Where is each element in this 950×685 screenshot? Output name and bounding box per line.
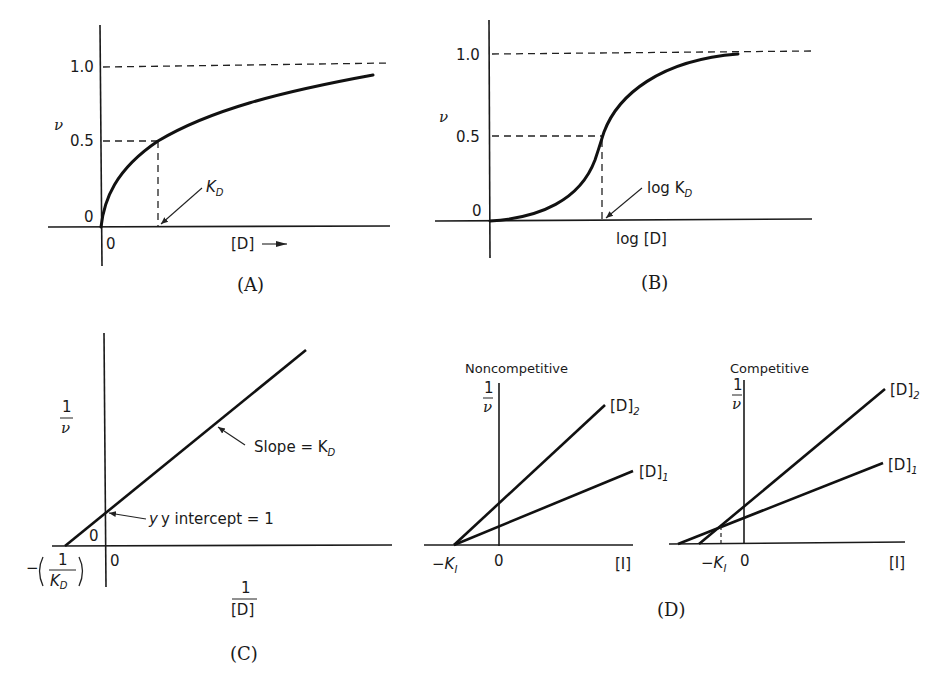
panel-d-competitive: Competitive 1 ν [D]2 [D]1 −KI 0 [I] [669,361,920,574]
origin-label: 0 [494,552,504,570]
label-d2: [D]2 [610,397,640,417]
label-d1: [D]1 [639,463,669,483]
paren-right [79,557,83,586]
y-axis [100,25,102,266]
line-d2 [454,405,605,545]
x-axis-label: log [D] [616,230,667,248]
y-axis-label-den: ν [483,398,492,416]
origin-label: 0 [740,552,750,570]
figure: 1.0 0.5 0 ν 0 KD [D] (A) 1.0 0.5 0 ν log… [0,0,950,685]
slope-label: Slope = KD [254,438,336,458]
x-axis-label: [I] [889,554,905,572]
origin-y-label: 0 [89,527,99,545]
x-intercept-num: 1 [58,551,68,569]
caption-c: (C) [230,643,258,664]
x-axis-label-num: 1 [241,579,251,597]
panel-b: 1.0 0.5 0 ν log KD log [D] (B) [435,20,812,293]
log-kd-arrow-icon [606,188,642,218]
y-tick-05: 0.5 [456,128,480,146]
asymptote-line [492,51,812,54]
x-axis [669,542,905,544]
x-axis [48,226,390,227]
y-axis [104,333,106,587]
y-axis-label-num: 1 [733,376,743,394]
line-d1 [454,471,633,545]
origin-x-label: 0 [110,552,120,570]
y-tick-0: 0 [472,202,482,220]
y-axis-label-num: 1 [484,379,494,397]
kd-label: KD [206,178,224,198]
intercept-arrow-icon [109,513,146,519]
label-d1: [D]1 [888,456,918,476]
panel-c: 1 ν 0 0 − 1 KD Slope = KD yy intercept =… [26,333,392,664]
ki-label: −KI [432,555,457,575]
log-kd-label: log KD [647,179,692,199]
caption-d: (D) [657,599,685,620]
y-axis-label: ν [54,116,63,134]
panel-a: 1.0 0.5 0 ν 0 KD [D] (A) [48,25,390,295]
x-origin-label: 0 [106,235,116,253]
x-axis-label-den: [D] [231,601,254,619]
x-axis-label: [I] [615,555,631,573]
x-axis-label: [D] [231,235,254,253]
y-tick-1: 1.0 [70,58,94,76]
y-tick-1: 1.0 [456,46,480,64]
noncompetitive-title: Noncompetitive [465,361,568,376]
panel-d-noncompetitive: Noncompetitive 1 ν [D]2 [D]1 −KI 0 [I] [424,361,669,575]
x-intercept-den: KD [50,572,68,591]
kd-arrow-icon [161,188,202,224]
ki-label: −KI [701,554,726,574]
caption-b: (B) [641,272,668,293]
intercept-label: yy intercept = 1 [148,510,274,528]
y-tick-0: 0 [84,208,94,226]
label-d2: [D]2 [890,381,920,401]
asymptote-line [103,63,390,67]
x-axis [52,545,392,546]
x-intercept-minus: − [26,559,39,577]
slope-arrow-icon [218,427,245,445]
y-axis-label-num: 1 [62,398,72,416]
caption-a: (A) [237,274,264,295]
y-axis-label-den: ν [61,419,70,437]
y-axis-label: ν [439,108,448,126]
paren-left [40,557,44,586]
binding-curve [101,75,373,227]
y-tick-05: 0.5 [70,132,94,150]
y-axis-label-den: ν [732,395,741,413]
line-d2 [699,389,885,544]
sigmoid-curve [490,54,738,221]
competitive-title: Competitive [730,361,809,376]
